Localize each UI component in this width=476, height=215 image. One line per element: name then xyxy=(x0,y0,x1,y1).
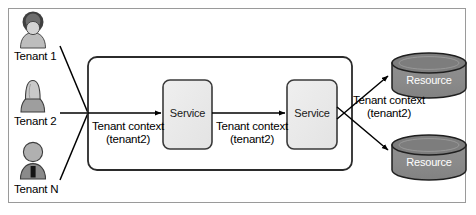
tenant-request-lines xyxy=(60,46,88,180)
tenant-context-label-1-line1: Tenant context xyxy=(89,120,167,133)
resource-2-label: Resource xyxy=(392,156,466,168)
diagram-canvas: Tenant 1 Tenant 2 Tenant N Service Servi… xyxy=(0,0,476,215)
tenant-context-label-2-line1: Tenant context xyxy=(213,120,291,133)
tenant-1-avatar-icon xyxy=(21,12,46,49)
tenant-n-label: Tenant N xyxy=(14,183,58,196)
tenant-1-line xyxy=(60,46,88,113)
tenant-2-avatar-icon xyxy=(21,81,45,113)
tenant-context-label-1: Tenant context (tenant2) xyxy=(89,120,167,146)
tenant-context-label-2-line2: (tenant2) xyxy=(213,133,291,146)
resource-1-label: Resource xyxy=(392,74,466,86)
tenant-1-label: Tenant 1 xyxy=(14,50,57,63)
tenant-context-label-3: Tenant context (tenant2) xyxy=(349,94,429,120)
tenant-context-label-3-line1: Tenant context xyxy=(349,94,429,107)
service-2-label: Service xyxy=(287,107,337,119)
tenant-context-label-2: Tenant context (tenant2) xyxy=(213,120,291,146)
tenant-context-label-3-line2: (tenant2) xyxy=(349,107,429,120)
tenant-n-avatar-icon xyxy=(21,142,46,179)
tenant-context-label-1-line2: (tenant2) xyxy=(89,133,167,146)
tenant-2-label: Tenant 2 xyxy=(14,115,57,128)
service-1-label: Service xyxy=(163,107,212,119)
tenant-n-line xyxy=(60,113,88,180)
